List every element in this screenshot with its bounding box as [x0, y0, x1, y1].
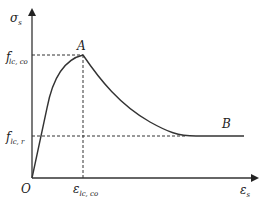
peak-stress-label: f′lc, co: [5, 50, 28, 66]
stress-strain-curve: [32, 55, 244, 178]
point-b-label: B: [221, 117, 231, 131]
residual-stress-label: flc, r: [5, 130, 25, 146]
x-axis-label: εs: [240, 183, 250, 199]
point-a-label: A: [76, 39, 86, 53]
origin-label: O: [21, 182, 31, 196]
peak-strain-label: εlc, co: [73, 182, 98, 198]
y-axis-label: σs: [10, 11, 22, 27]
stress-strain-diagram: σs εs O A B f′lc, co flc, r εlc, co: [0, 0, 262, 199]
